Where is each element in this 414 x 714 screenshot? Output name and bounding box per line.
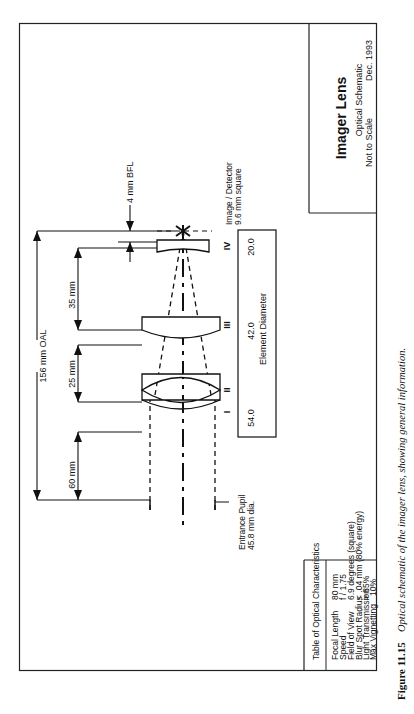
dimension-element2-to-element3: [74, 345, 142, 402]
element-label-IV: IV: [222, 242, 232, 251]
dimension-pupil-to-element1: [74, 432, 142, 500]
element-diameter-value-1: 54.0: [246, 409, 256, 427]
lens-element-I-II: [142, 374, 220, 409]
dimension-label-25mm: 25 mm: [67, 360, 77, 388]
element-label-II: II: [222, 387, 232, 392]
element-diameter-value-2: 42.0: [246, 322, 256, 340]
table-rows: Focal Length 80 mm Speed f / 1.75 Field …: [330, 511, 378, 660]
dimension-label-oal: 156 mm OAL: [38, 329, 48, 382]
dimension-label-35mm: 35 mm: [67, 281, 77, 309]
title-block-date: Dec. 1993: [364, 40, 374, 81]
lens-element-III: [142, 317, 220, 338]
table-heading: Table of Optical Characteristics: [311, 543, 321, 660]
dimension-label-bfl: 4 mm BFL: [125, 161, 135, 203]
optical-schematic-figure: Imager Lens Optical Schematic Not to Sca…: [0, 0, 414, 714]
element-diameter-label: Element Diameter: [258, 293, 268, 365]
entrance-pupil-size: 45.8 mm dia.: [246, 501, 256, 550]
title-block-title: Imager Lens: [333, 77, 349, 160]
table-row-value: 10%: [368, 579, 378, 596]
element-label-III: III: [222, 321, 232, 329]
converging-ray-left: [155, 230, 183, 395]
table-row-label: Max Vignetting: [368, 604, 378, 660]
figure-caption-number: Figure 11.15: [395, 642, 407, 700]
image-detector-size: 9.6 mm square: [233, 168, 243, 225]
dimension-overall-length: [33, 231, 175, 500]
element-label-I: I: [222, 411, 232, 414]
figure-caption-text: Optical schematic of the imager lens, sh…: [396, 348, 407, 632]
dimension-back-focal-length: [118, 205, 157, 262]
title-block-scale-note: Not to Scale: [364, 118, 374, 167]
converging-ray-right: [183, 230, 211, 395]
dimension-label-60mm: 60 mm: [67, 461, 77, 489]
element-diameter-value-3: 20.0: [246, 238, 256, 256]
element-diameter-box: [238, 230, 276, 437]
title-block-subtitle: Optical Schematic: [354, 63, 364, 136]
drawing-border: [20, 24, 377, 671]
